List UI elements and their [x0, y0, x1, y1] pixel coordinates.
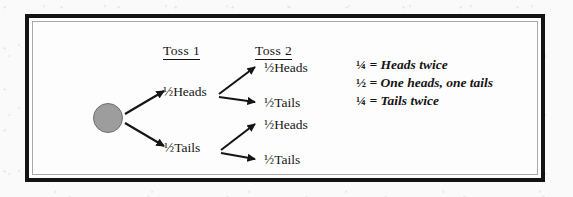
branch-tails-to-tails — [221, 153, 255, 159]
outcome-text: Tails — [274, 152, 300, 167]
column-header-toss-2: Toss 2 — [255, 44, 292, 60]
outcome-text: Tails — [174, 140, 200, 155]
node-label-toss1-heads: ½Heads — [163, 84, 207, 99]
node-label-toss2-tails-2: ½Tails — [264, 152, 300, 167]
legend-equals: = — [370, 93, 378, 108]
probability-tree-diagram: Toss 1 Toss 2 ½Heads ½Tails ½Heads ½Tail… — [33, 22, 545, 182]
legend-description: Heads twice — [381, 57, 448, 72]
legend-row: ¼ = Tails twice — [356, 92, 536, 110]
node-label-toss2-tails-1: ½Tails — [264, 95, 300, 110]
node-label-toss1-tails: ½Tails — [164, 140, 200, 155]
probability-fraction: ½ — [163, 84, 173, 99]
legend-row: ¼ = Heads twice — [356, 56, 536, 74]
outcome-legend: ¼ = Heads twice ½ = One heads, one tails… — [356, 56, 536, 110]
branch-root-to-heads — [125, 91, 164, 114]
legend-equals: = — [370, 57, 378, 72]
legend-probability: ¼ — [356, 93, 366, 108]
node-label-toss2-heads-2: ½Heads — [264, 117, 308, 132]
legend-probability: ½ — [356, 75, 366, 90]
start-node-circle — [93, 103, 123, 133]
outcome-text: Tails — [274, 95, 300, 110]
legend-description: One heads, one tails — [381, 75, 494, 90]
node-label-toss2-heads-1: ½Heads — [264, 60, 308, 75]
branch-root-to-tails — [125, 123, 164, 146]
outcome-text: Heads — [274, 60, 308, 75]
probability-fraction: ½ — [164, 140, 174, 155]
legend-equals: = — [370, 75, 378, 90]
branch-tails-to-heads — [221, 124, 255, 150]
column-header-toss-1: Toss 1 — [163, 44, 200, 60]
probability-fraction: ½ — [264, 95, 274, 110]
legend-probability: ¼ — [356, 57, 366, 72]
branch-heads-to-heads — [219, 67, 255, 94]
figure-inner-border: Toss 1 Toss 2 ½Heads ½Tails ½Heads ½Tail… — [32, 21, 538, 175]
outcome-text: Heads — [274, 117, 308, 132]
legend-description: Tails twice — [381, 93, 439, 108]
probability-fraction: ½ — [264, 152, 274, 167]
branch-heads-to-tails — [219, 97, 255, 102]
probability-fraction: ½ — [264, 117, 274, 132]
legend-row: ½ = One heads, one tails — [356, 74, 536, 92]
outcome-text: Heads — [173, 84, 207, 99]
probability-fraction: ½ — [264, 60, 274, 75]
figure-frame: Toss 1 Toss 2 ½Heads ½Tails ½Heads ½Tail… — [25, 14, 545, 182]
